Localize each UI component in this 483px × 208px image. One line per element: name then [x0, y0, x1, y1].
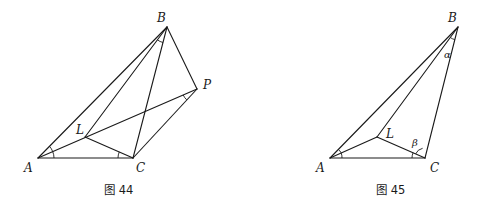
- point-label-A: A: [23, 161, 33, 175]
- angle-mark-A-outer: [338, 149, 341, 152]
- point-label-B: B: [447, 11, 457, 25]
- angle-mark-C: [118, 152, 119, 158]
- segment-AL: [330, 137, 377, 158]
- figure-caption: 图 45: [376, 183, 405, 197]
- angle-label-alpha: α: [444, 49, 451, 60]
- angle-mark-alpha: [450, 38, 455, 40]
- angle-label-beta: β: [411, 137, 418, 148]
- point-label-B: B: [156, 11, 166, 25]
- angle-mark-beta: [416, 148, 423, 154]
- angle-mark-B: [157, 40, 163, 43]
- point-label-C: C: [136, 161, 145, 175]
- angle-mark-A: [50, 146, 53, 151]
- segment-LC: [377, 137, 425, 158]
- segment-BC: [425, 27, 458, 158]
- segment-CP: [133, 89, 197, 158]
- segment-BL: [85, 27, 167, 137]
- segment-BP: [167, 27, 197, 89]
- segment-AP: [38, 89, 197, 158]
- angle-mark-A-2: [53, 152, 54, 158]
- figure-caption: 图 44: [104, 183, 133, 197]
- geometry-figures: B P L A C 图 44 α β B L A C 图 45: [0, 0, 483, 208]
- segment-LC: [85, 137, 133, 158]
- angle-mark-P: [183, 95, 187, 100]
- segment-BL: [377, 27, 458, 137]
- figure-45: α β B L A C 图 45: [315, 11, 458, 197]
- figure-44: B P L A C 图 44: [23, 11, 212, 197]
- point-label-L: L: [385, 127, 394, 141]
- angle-mark-C-LCA: [412, 153, 413, 158]
- segment-AB: [330, 27, 458, 158]
- point-label-C: C: [430, 161, 439, 175]
- angle-mark-A-inner: [341, 153, 342, 158]
- point-label-L: L: [75, 123, 84, 137]
- segment-AB: [38, 27, 167, 158]
- point-label-A: A: [315, 161, 325, 175]
- point-label-P: P: [202, 78, 212, 92]
- segment-BC: [133, 27, 167, 158]
